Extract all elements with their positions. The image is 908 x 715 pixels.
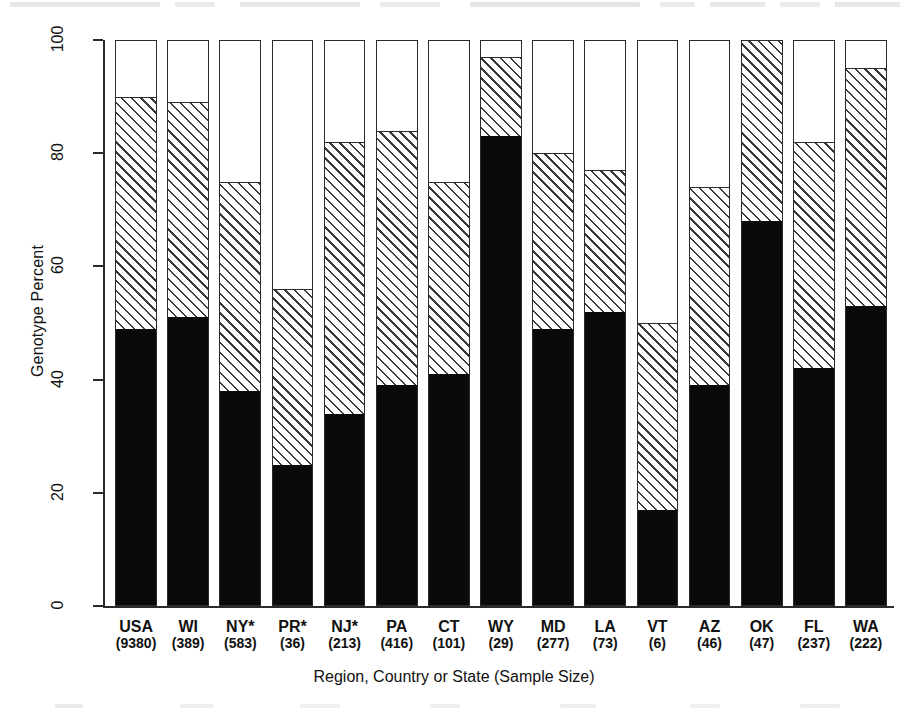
scan-speckle <box>180 704 214 708</box>
bar-segment-hatched <box>480 57 522 136</box>
scan-artifact-bottom <box>0 700 908 715</box>
y-axis-tick <box>93 39 103 41</box>
bar-segment-solid <box>689 385 731 606</box>
bar-segment-hatched <box>584 170 626 312</box>
x-label-sample-size: (222) <box>824 635 908 652</box>
bar-segment-open <box>532 40 574 153</box>
bar-wa[interactable] <box>845 40 887 606</box>
y-axis-tick-label: 60 <box>49 235 67 295</box>
bar-segment-open <box>324 40 366 142</box>
bar-fl[interactable] <box>793 40 835 606</box>
bar-segment-open <box>845 40 887 68</box>
plot-area <box>110 40 892 606</box>
y-axis-title: Genotype Percent <box>29 51 47 571</box>
bar-segment-open <box>272 40 314 289</box>
bar-segment-solid <box>167 317 209 606</box>
bar-segment-hatched <box>324 142 366 414</box>
y-axis-tick <box>93 265 103 267</box>
bar-nj[interactable] <box>324 40 366 606</box>
bar-segment-hatched <box>741 40 783 221</box>
bar-segment-solid <box>324 414 366 606</box>
bar-segment-solid <box>532 329 574 606</box>
bar-segment-solid <box>741 221 783 606</box>
bar-segment-open <box>219 40 261 182</box>
bar-usa[interactable] <box>115 40 157 606</box>
bar-segment-hatched <box>689 187 731 385</box>
bar-segment-hatched <box>532 153 574 328</box>
bar-segment-solid <box>219 391 261 606</box>
y-axis-tick <box>93 379 103 381</box>
bar-wi[interactable] <box>167 40 209 606</box>
y-axis-tick-label: 100 <box>49 9 67 69</box>
bar-az[interactable] <box>689 40 731 606</box>
bar-segment-solid <box>272 465 314 607</box>
y-axis-tick-label: 20 <box>49 462 67 522</box>
bar-segment-hatched <box>793 142 835 368</box>
bar-segment-solid <box>428 374 470 606</box>
y-axis-line <box>103 40 105 607</box>
y-axis-tick-label: 40 <box>49 349 67 409</box>
bar-segment-hatched <box>428 182 470 374</box>
bar-segment-open <box>689 40 731 187</box>
scan-speckle <box>800 704 840 708</box>
bar-segment-hatched <box>637 323 679 510</box>
scan-speckle <box>300 704 340 708</box>
bar-segment-open <box>376 40 418 131</box>
x-axis-line <box>103 606 894 608</box>
y-axis-tick-label: 0 <box>49 575 67 635</box>
bar-segment-open <box>637 40 679 323</box>
bar-segment-hatched <box>219 182 261 391</box>
bar-segment-open <box>480 40 522 57</box>
bar-ok[interactable] <box>741 40 783 606</box>
bar-segment-open <box>584 40 626 170</box>
scan-speckle <box>55 704 83 708</box>
bar-segment-hatched <box>167 102 209 317</box>
bar-la[interactable] <box>584 40 626 606</box>
x-axis-title: Region, Country or State (Sample Size) <box>0 668 908 686</box>
y-axis-tick <box>93 605 103 607</box>
bar-segment-open <box>428 40 470 182</box>
bar-md[interactable] <box>532 40 574 606</box>
scan-speckle <box>560 704 596 708</box>
bar-segment-solid <box>115 329 157 606</box>
bar-pr[interactable] <box>272 40 314 606</box>
bar-segment-solid <box>480 136 522 606</box>
bar-pa[interactable] <box>376 40 418 606</box>
bar-ct[interactable] <box>428 40 470 606</box>
bar-segment-solid <box>637 510 679 606</box>
bar-segment-solid <box>584 312 626 606</box>
bar-vt[interactable] <box>637 40 679 606</box>
y-axis-tick <box>93 152 103 154</box>
y-axis-tick-label: 80 <box>49 122 67 182</box>
bar-segment-open <box>793 40 835 142</box>
bar-segment-open <box>167 40 209 102</box>
bar-segment-hatched <box>272 289 314 464</box>
bar-segment-hatched <box>845 68 887 306</box>
bar-segment-open <box>115 40 157 97</box>
bar-segment-solid <box>376 385 418 606</box>
x-axis-label-wa: WA(222) <box>824 618 908 652</box>
bar-ny[interactable] <box>219 40 261 606</box>
bar-wy[interactable] <box>480 40 522 606</box>
y-axis-tick <box>93 492 103 494</box>
scan-speckle <box>690 704 720 708</box>
x-label-code: WA <box>824 618 908 635</box>
scan-speckle <box>430 704 460 708</box>
bar-segment-solid <box>793 368 835 606</box>
chart-figure: Genotype Percent 100806040200 USA(9380)W… <box>0 0 908 715</box>
bar-segment-hatched <box>376 131 418 386</box>
bar-segment-solid <box>845 306 887 606</box>
bar-segment-hatched <box>115 97 157 329</box>
